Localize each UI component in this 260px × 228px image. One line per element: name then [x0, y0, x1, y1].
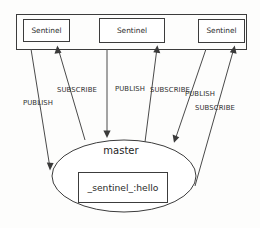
hello-channel-label: _sentinel_:hello: [87, 182, 159, 193]
diagram-svg: Sentinel Sentinel Sentinel master _senti…: [0, 0, 260, 228]
sentinel-box-1-label: Sentinel: [31, 26, 61, 35]
connector-subscribe-1: [58, 48, 85, 140]
master-label: master: [103, 145, 139, 156]
arrowhead-publish-2: [103, 130, 110, 138]
connector-publish-1: [31, 49, 50, 168]
sentinel-box-2-label: Sentinel: [117, 26, 147, 35]
sentinel-box-3-label: Sentinel: [206, 26, 236, 35]
edge-label-publish-3: PUBLISH: [185, 90, 215, 98]
diagram-canvas: Sentinel Sentinel Sentinel master _senti…: [0, 0, 260, 228]
connector-subscribe-2: [145, 48, 157, 142]
arrowhead-publish-1: [47, 163, 54, 171]
edge-label-publish-1: PUBLISH: [23, 99, 53, 107]
edge-label-publish-2: PUBLISH: [115, 85, 145, 93]
edge-label-subscribe-1: SUBSCRIBE: [57, 86, 97, 94]
connector-subscribe-3: [195, 48, 234, 186]
edge-label-subscribe-3: SUBSCRIBE: [195, 104, 235, 112]
